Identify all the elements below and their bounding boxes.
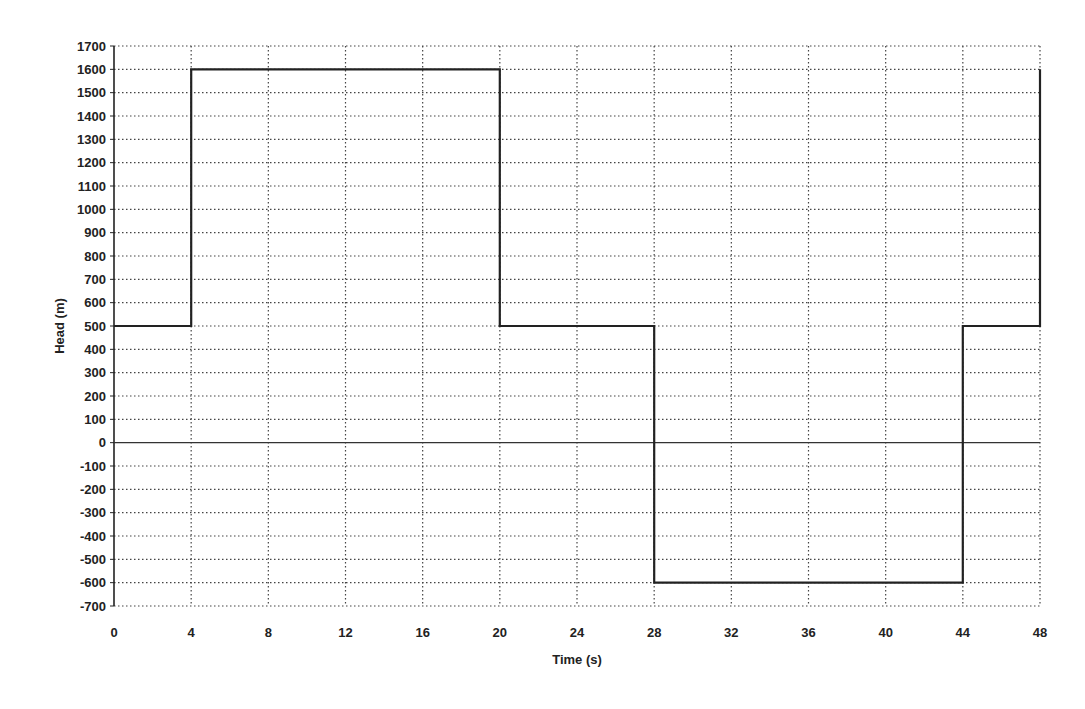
x-tick-label: 36 [801,625,815,640]
y-tick-label: 1600 [77,62,106,77]
x-tick-label: 32 [724,625,738,640]
y-tick-label: 1300 [77,132,106,147]
y-tick-label: 1500 [77,85,106,100]
x-tick-label: 20 [493,625,507,640]
y-tick-label: -500 [80,552,106,567]
y-tick-label: 500 [84,319,106,334]
x-tick-label: 24 [570,625,585,640]
x-tick-label: 40 [878,625,892,640]
y-tick-label: 0 [99,435,106,450]
x-tick-label: 4 [188,625,196,640]
y-tick-label: 1700 [77,39,106,54]
y-tick-label: -600 [80,575,106,590]
y-tick-label: 400 [84,342,106,357]
y-tick-label: -300 [80,505,106,520]
y-tick-label: -700 [80,599,106,614]
y-axis-tick-labels: 1700160015001400130012001100100090080070… [77,39,106,614]
x-tick-label: 12 [338,625,352,640]
x-tick-label: 16 [415,625,429,640]
y-tick-label: 1100 [78,179,106,194]
x-tick-label: 8 [265,625,272,640]
y-tick-label: 900 [84,225,106,240]
y-tick-label: 1400 [77,109,106,124]
y-tick-label: 800 [84,249,106,264]
y-tick-label: 1200 [77,155,106,170]
x-tick-label: 44 [956,625,971,640]
y-tick-label: 700 [84,272,106,287]
y-tick-label: 300 [84,365,106,380]
x-tick-label: 48 [1033,625,1047,640]
y-tick-label: -100 [80,459,106,474]
x-tick-label: 0 [110,625,117,640]
x-axis-tick-labels: 04812162024283236404448 [110,625,1047,640]
y-axis-title: Head (m) [52,298,67,354]
y-tick-label: 1000 [77,202,106,217]
y-tick-label: 600 [84,295,106,310]
y-tick-label: 100 [84,412,106,427]
x-tick-label: 28 [647,625,661,640]
y-tick-label: -400 [80,529,106,544]
y-tick-label: 200 [84,389,106,404]
x-axis-title: Time (s) [552,652,602,667]
head-vs-time-chart: 1700160015001400130012001100100090080070… [0,0,1085,709]
y-tick-label: -200 [80,482,106,497]
